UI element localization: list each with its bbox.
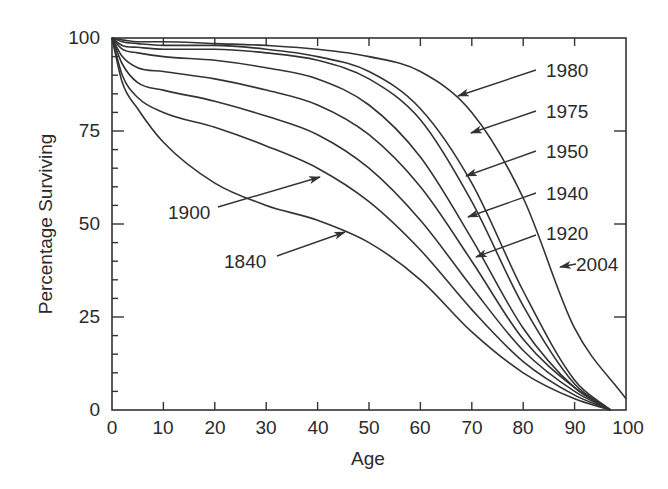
arrow-1975 <box>471 111 536 133</box>
x-tick-label: 100 <box>612 417 644 438</box>
x-axis-title: Age <box>351 448 385 469</box>
label-2004: 2004 <box>576 254 619 275</box>
y-tick-label: 100 <box>68 27 100 48</box>
x-tick-label: 30 <box>255 417 276 438</box>
arrow-1840 <box>277 232 345 256</box>
x-tick-label: 10 <box>152 417 173 438</box>
x-tick-label: 80 <box>512 417 533 438</box>
x-tick-label: 90 <box>564 417 585 438</box>
label-1950: 1950 <box>546 141 588 162</box>
label-1975: 1975 <box>546 101 588 122</box>
x-tick-label: 40 <box>307 417 328 438</box>
x-tick-label: 70 <box>461 417 482 438</box>
label-1980: 1980 <box>546 60 588 81</box>
label-1840: 1840 <box>224 251 266 272</box>
x-axis-tick-labels: 0 10 20 30 40 50 60 70 80 90 100 <box>107 417 644 438</box>
y-axis-title: Percentage Surviving <box>35 134 56 315</box>
x-tick-label: 0 <box>107 417 118 438</box>
label-1940: 1940 <box>546 183 588 204</box>
annotations: 1980 1975 1950 1940 1920 2004 1900 1840 <box>168 60 619 275</box>
x-tick-label: 50 <box>358 417 379 438</box>
x-tick-label: 20 <box>204 417 225 438</box>
arrow-1980 <box>458 70 536 96</box>
label-1900: 1900 <box>168 202 210 223</box>
y-tick-label: 0 <box>89 399 100 420</box>
survival-curve-chart: 0 25 50 75 100 0 10 20 30 40 50 60 70 80… <box>0 0 668 489</box>
y-tick-label: 25 <box>79 306 100 327</box>
arrow-2004 <box>560 264 576 267</box>
x-tick-label: 60 <box>409 417 430 438</box>
y-tick-label: 75 <box>79 120 100 141</box>
y-axis-tick-labels: 0 25 50 75 100 <box>68 27 100 420</box>
curve-1940 <box>112 38 611 410</box>
y-tick-label: 50 <box>79 213 100 234</box>
label-1920: 1920 <box>546 223 588 244</box>
